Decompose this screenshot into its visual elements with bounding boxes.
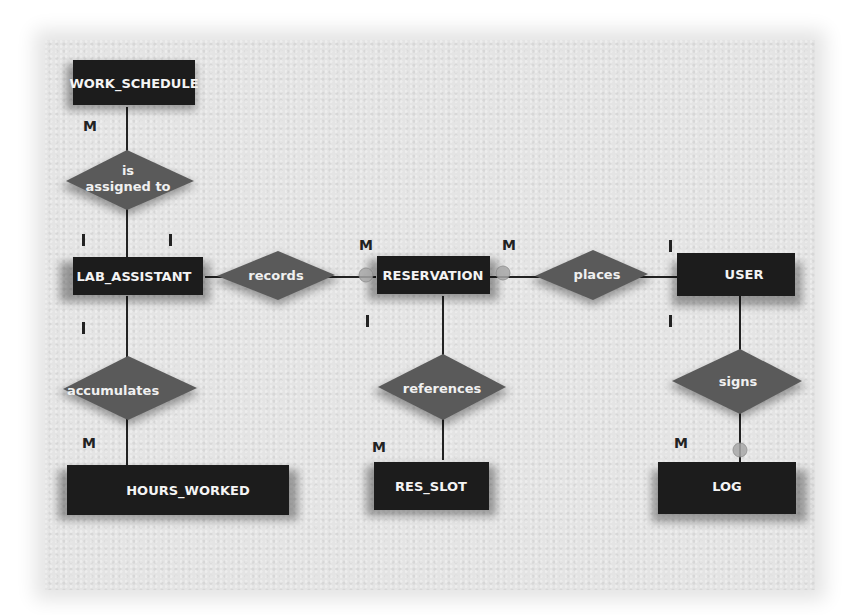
- cardinality-one: [669, 240, 672, 252]
- cardinality-one: [669, 315, 672, 327]
- entity-label: USER: [725, 267, 764, 282]
- entity-label: HOURS_WORKED: [126, 483, 250, 499]
- cardinality-many: M: [83, 118, 97, 134]
- cardinality-many: M: [674, 435, 688, 451]
- entity-label: WORK_SCHEDULE: [69, 76, 198, 92]
- relationship-places[interactable]: places: [530, 250, 652, 305]
- entity-label: RESERVATION: [382, 268, 483, 283]
- entity-hours-worked[interactable]: HOURS_WORKED: [58, 465, 298, 520]
- cardinality-one: [82, 234, 85, 246]
- optional-marker: [733, 443, 747, 457]
- cardinality-many: M: [502, 237, 516, 253]
- cardinality-one: [82, 322, 85, 334]
- relationship-label: signs: [719, 374, 758, 389]
- relationship-label: references: [403, 381, 482, 396]
- cardinality-one: [366, 315, 369, 327]
- entity-res-slot[interactable]: RES_SLOT: [366, 462, 496, 516]
- relationship-is-assigned-to[interactable]: is assigned to: [60, 150, 196, 215]
- er-diagram: WORK_SCHEDULE LAB_ASSISTANT RESERVATION …: [0, 0, 853, 615]
- entity-log[interactable]: LOG: [652, 462, 807, 522]
- relationship-label: records: [248, 268, 304, 283]
- relationship-references[interactable]: references: [372, 354, 510, 426]
- relationship-label-line1: is: [122, 163, 134, 178]
- entity-lab-assistant[interactable]: LAB_ASSISTANT: [60, 257, 210, 302]
- entity-reservation[interactable]: RESERVATION: [368, 256, 498, 300]
- entity-user[interactable]: USER: [672, 253, 802, 306]
- relationship-label: accumulates: [67, 383, 160, 398]
- relationship-label-line2: assigned to: [85, 179, 170, 194]
- cardinality-many: M: [82, 435, 96, 451]
- cardinality-one: [169, 234, 172, 246]
- relationship-records[interactable]: records: [213, 251, 340, 305]
- relationship-label: places: [574, 267, 621, 282]
- relationship-accumulates[interactable]: accumulates: [58, 356, 200, 425]
- entity-label: LAB_ASSISTANT: [77, 269, 192, 285]
- optional-marker: [496, 266, 510, 280]
- entity-label: LOG: [712, 479, 742, 494]
- entity-label: RES_SLOT: [395, 479, 467, 495]
- cardinality-many: M: [372, 439, 386, 455]
- optional-marker: [359, 268, 373, 282]
- cardinality-many: M: [359, 237, 373, 253]
- relationship-signs[interactable]: signs: [668, 349, 806, 418]
- entity-work-schedule[interactable]: WORK_SCHEDULE: [66, 60, 199, 110]
